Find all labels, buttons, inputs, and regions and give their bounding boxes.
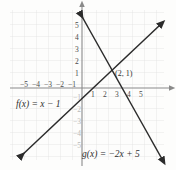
x-tick-neg-5: −5 xyxy=(20,81,28,89)
y-tick-2: 2 xyxy=(75,58,79,66)
x-tick-neg-3: −3 xyxy=(44,81,52,89)
x-tick-3: 3 xyxy=(115,91,119,99)
y-tick-neg-4: −4 xyxy=(73,130,81,138)
x-tick-4: 4 xyxy=(127,91,131,99)
y-tick-neg-5: −5 xyxy=(73,142,81,150)
y-tick-neg-1: −1 xyxy=(73,94,81,102)
x-tick-2: 2 xyxy=(103,91,107,99)
x-tick-neg-2: −2 xyxy=(56,81,64,89)
y-tick-3: 3 xyxy=(75,46,79,54)
y-tick-5: 5 xyxy=(75,22,79,30)
coordinate-plane-figure: −5 −4 −3 −2 −1 1 2 3 4 5 5 4 3 2 1 −1 −2… xyxy=(0,0,176,170)
intersection-point-label: (2, 1) xyxy=(115,70,132,78)
y-tick-neg-2: −2 xyxy=(73,106,81,114)
y-tick-neg-3: −3 xyxy=(73,118,81,126)
x-tick-5: 5 xyxy=(139,91,143,99)
y-tick-4: 4 xyxy=(75,34,79,42)
x-tick-neg-1: −1 xyxy=(68,81,76,89)
function-g-label: g(x) = −2x + 5 xyxy=(82,150,140,160)
function-f-label: f(x) = x − 1 xyxy=(16,100,60,110)
x-tick-1: 1 xyxy=(91,91,95,99)
y-tick-1: 1 xyxy=(75,70,79,78)
x-tick-neg-4: −4 xyxy=(32,81,40,89)
